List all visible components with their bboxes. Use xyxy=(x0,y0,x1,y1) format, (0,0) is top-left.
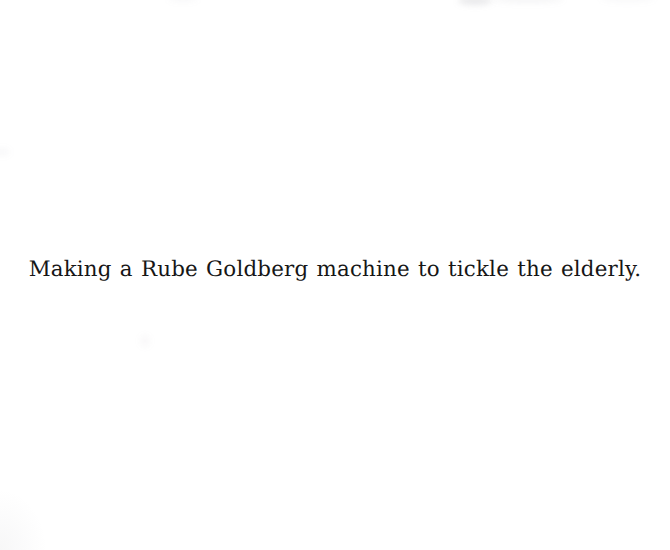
scan-smudge-top-b xyxy=(492,0,564,3)
caption-text: Making a Rube Goldberg machine to tickle… xyxy=(29,255,642,284)
scan-smudge-top-c xyxy=(168,0,198,2)
scan-smudge-top-d xyxy=(600,0,655,2)
scan-speck-mid-left xyxy=(0,148,10,156)
page-corner-shadow xyxy=(0,490,46,550)
scan-smudge-top-a xyxy=(458,0,492,5)
scanned-page-canvas: Making a Rube Goldberg machine to tickle… xyxy=(0,0,670,550)
caption-line: Making a Rube Goldberg machine to tickle… xyxy=(0,255,670,295)
scan-speck-mid-center xyxy=(140,335,150,347)
